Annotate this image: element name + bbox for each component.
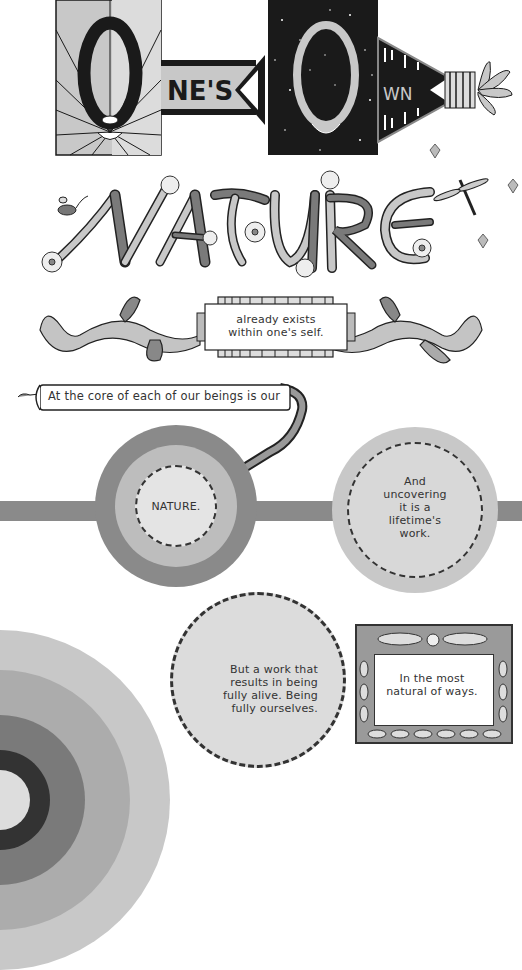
wn-bar: WN — [378, 38, 475, 142]
sunburst-panel — [56, 0, 161, 155]
text-line: In the most — [372, 672, 492, 685]
circle-uncovering-text: And uncovering it is a lifetime's work. — [360, 475, 470, 540]
text-line: uncovering — [360, 488, 470, 501]
svg-text:WN: WN — [383, 84, 413, 104]
frame-text: In the most natural of ways. — [372, 672, 492, 698]
nature-title-artwork — [0, 160, 522, 285]
circle-fully-alive-text: But a work that results in being fully a… — [200, 663, 318, 715]
leaf-flourish-icon — [478, 62, 512, 115]
acorn-icon — [427, 634, 439, 646]
text-line: natural of ways. — [372, 685, 492, 698]
text-line: And — [360, 475, 470, 488]
text-line: work. — [360, 527, 470, 540]
text-line: But a work that — [200, 663, 318, 676]
circle-nature-text: NATURE. — [135, 500, 217, 513]
beetle-icon — [58, 196, 88, 215]
text-line: it is a — [360, 501, 470, 514]
text-line: fully ourselves. — [200, 702, 318, 715]
concentric-arcs — [0, 630, 170, 970]
svg-text:NE'S: NE'S — [167, 76, 233, 106]
text-line: results in being — [200, 676, 318, 689]
banner-line-1: already exists — [205, 313, 347, 326]
banner-text: already exists within one's self. — [205, 313, 347, 339]
text-line: lifetime's — [360, 514, 470, 527]
starfield-panel — [268, 0, 378, 155]
nes-bar: NE'S — [161, 55, 265, 125]
banner-line-2: within one's self. — [205, 326, 347, 339]
text-line: fully alive. Being — [200, 689, 318, 702]
title-artwork: NE'S WN — [0, 0, 522, 160]
scroll-text: At the core of each of our beings is our — [48, 390, 288, 403]
dragonfly-icon — [433, 177, 489, 215]
